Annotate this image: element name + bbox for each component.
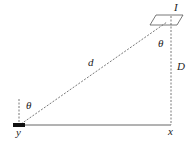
label-angle-bottom: θ [26, 99, 32, 111]
label-angle-top: θ [158, 37, 164, 49]
source-plate [150, 15, 183, 25]
label-height: D [176, 60, 185, 72]
label-point-x: x [167, 125, 173, 137]
label-point-y: y [15, 126, 21, 138]
label-source: I [173, 1, 179, 13]
label-distance: d [88, 56, 94, 68]
diagonal-dashed-line [21, 22, 167, 124]
diagram: I θ D d θ y x [0, 0, 195, 151]
